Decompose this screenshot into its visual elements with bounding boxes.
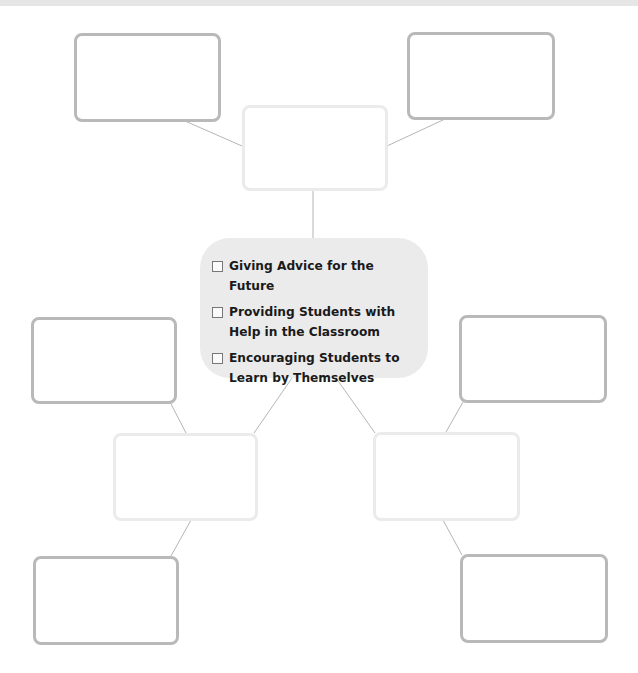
node-bottom-right[interactable] xyxy=(460,554,608,643)
connector-top-right xyxy=(387,119,445,146)
node-bottom-left[interactable] xyxy=(33,556,179,645)
topic-option-label: Providing Students with Help in the Clas… xyxy=(229,302,418,342)
central-topic: Giving Advice for the Future Providing S… xyxy=(200,238,428,378)
node-mid-left[interactable] xyxy=(31,317,177,404)
node-top-right[interactable] xyxy=(407,32,555,120)
topic-option-label: Encouraging Students to Learn by Themsel… xyxy=(229,348,418,388)
checkbox-icon[interactable] xyxy=(212,353,223,364)
connector-bottom-right xyxy=(443,520,462,555)
checkbox-icon[interactable] xyxy=(212,307,223,318)
node-top-left[interactable] xyxy=(74,33,221,122)
node-top-middle[interactable] xyxy=(242,105,388,191)
topic-option-label: Giving Advice for the Future xyxy=(229,256,418,296)
connector-mid-right xyxy=(446,402,463,432)
node-lower-left[interactable] xyxy=(113,433,258,521)
topic-option-1[interactable]: Giving Advice for the Future xyxy=(212,256,418,296)
node-mid-right[interactable] xyxy=(459,315,607,403)
topic-option-3[interactable]: Encouraging Students to Learn by Themsel… xyxy=(212,348,418,388)
connector-mid-left xyxy=(170,402,186,433)
topic-option-2[interactable]: Providing Students with Help in the Clas… xyxy=(212,302,418,342)
checkbox-icon[interactable] xyxy=(212,261,223,272)
node-lower-right[interactable] xyxy=(373,432,520,521)
connector-top-left xyxy=(185,121,242,146)
connector-bottom-left xyxy=(171,520,191,556)
